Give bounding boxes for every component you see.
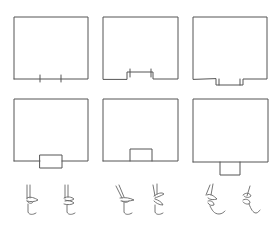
panel-6-outer-block — [193, 99, 268, 175]
panel-1-tick-marks — [14, 17, 88, 82]
lip-profile-group-2 — [116, 184, 164, 214]
lip-profile-closed-right — [64, 185, 75, 214]
panel-5-block — [130, 149, 152, 161]
diagram-svg — [0, 0, 279, 230]
lip-profile-rounded-right — [243, 186, 260, 213]
lip-profile-protruding-right — [153, 184, 164, 214]
lip-profile-closed-left — [27, 185, 38, 214]
panel-4-block — [40, 155, 62, 168]
panel-1-frame — [14, 17, 88, 79]
lip-profile-group-3 — [206, 184, 260, 214]
panel-2-frame — [103, 17, 178, 79]
panel-4-straddling-block — [14, 99, 88, 168]
panel-3-frame — [193, 17, 267, 85]
panel-6-frame — [193, 99, 268, 162]
lip-profile-protruding-left — [116, 185, 134, 214]
lip-profile-group-1 — [27, 185, 75, 214]
panel-5-inner-block — [103, 99, 178, 161]
figure-canvas — [0, 0, 279, 230]
lip-profile-rounded-left — [206, 184, 225, 214]
panel-4-frame — [14, 99, 88, 161]
panel-2-raised-notch — [103, 17, 178, 79]
panel-5-frame — [103, 99, 178, 161]
panel-3-lowered-notch — [193, 17, 267, 85]
panel-6-block — [220, 162, 240, 175]
